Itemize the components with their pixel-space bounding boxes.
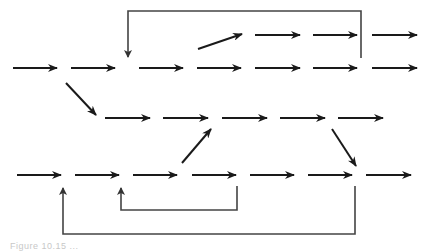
figure-caption: Figure 10.15 ...: [10, 241, 420, 251]
diagonal-arrow-c-to-d: [332, 129, 356, 166]
diagonal-arrow-d-to-c: [182, 129, 211, 163]
diagonal-arrow-b-to-c: [66, 83, 96, 115]
diagonal-arrow-b-to-a: [198, 34, 242, 49]
diagonal-arrows: [66, 34, 356, 166]
inner-bottom-loop: [121, 186, 237, 210]
arrow-rows: [13, 35, 417, 175]
